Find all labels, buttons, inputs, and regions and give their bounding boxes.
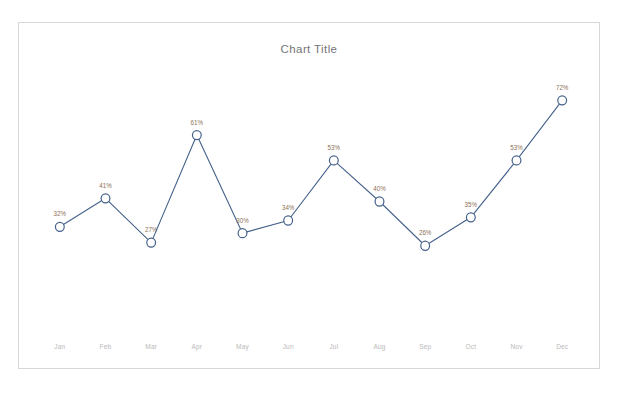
data-point-marker[interactable]	[101, 194, 110, 203]
caption-band-line2	[30, 388, 270, 396]
data-point-marker[interactable]	[512, 156, 521, 165]
line-chart-svg: 32%41%27%61%30%34%53%40%26%35%53%72%	[37, 75, 585, 328]
data-point-label: 53%	[328, 144, 341, 151]
data-point-label: 40%	[373, 185, 386, 192]
x-axis-tick-jun: Jun	[265, 343, 311, 350]
data-point-marker[interactable]	[284, 216, 293, 225]
x-axis-tick-jul: Jul	[311, 343, 357, 350]
data-point-label: 61%	[191, 119, 204, 126]
caption-band-line1	[30, 374, 596, 382]
x-axis-tick-feb: Feb	[83, 343, 129, 350]
data-point-marker[interactable]	[192, 131, 201, 140]
x-axis-tick-apr: Apr	[174, 343, 220, 350]
data-point-label: 26%	[419, 229, 432, 236]
data-point-label: 32%	[54, 210, 67, 217]
data-point-marker[interactable]	[238, 229, 247, 238]
data-point-marker[interactable]	[558, 96, 567, 105]
x-axis-tick-mar: Mar	[128, 343, 174, 350]
series-markers[interactable]	[55, 96, 566, 251]
data-point-marker[interactable]	[421, 241, 430, 250]
page-root: Chart Title 32%41%27%61%30%34%53%40%26%3…	[0, 0, 618, 400]
x-axis: JanFebMarAprMayJunJulAugSepOctNovDec	[37, 338, 585, 354]
series-data-labels: 32%41%27%61%30%34%53%40%26%35%53%72%	[54, 84, 569, 237]
data-point-marker[interactable]	[55, 222, 64, 231]
data-point-marker[interactable]	[329, 156, 338, 165]
chart-title: Chart Title	[19, 43, 599, 55]
x-axis-tick-sep: Sep	[402, 343, 448, 350]
chart-frame: Chart Title 32%41%27%61%30%34%53%40%26%3…	[18, 22, 600, 369]
series-line	[60, 100, 562, 245]
data-point-label: 27%	[145, 226, 158, 233]
data-point-label: 34%	[282, 204, 295, 211]
x-axis-tick-dec: Dec	[539, 343, 585, 350]
data-point-label: 53%	[510, 144, 523, 151]
data-point-label: 30%	[236, 217, 249, 224]
x-axis-tick-oct: Oct	[448, 343, 494, 350]
x-axis-tick-nov: Nov	[494, 343, 540, 350]
data-point-label: 35%	[465, 201, 478, 208]
x-axis-tick-jan: Jan	[37, 343, 83, 350]
data-point-marker[interactable]	[466, 213, 475, 222]
data-point-marker[interactable]	[375, 197, 384, 206]
plot-area[interactable]: 32%41%27%61%30%34%53%40%26%35%53%72%	[37, 75, 585, 328]
x-axis-tick-may: May	[220, 343, 266, 350]
data-point-marker[interactable]	[147, 238, 156, 247]
data-point-label: 72%	[556, 84, 569, 91]
x-axis-tick-aug: Aug	[357, 343, 403, 350]
data-point-label: 41%	[99, 182, 112, 189]
